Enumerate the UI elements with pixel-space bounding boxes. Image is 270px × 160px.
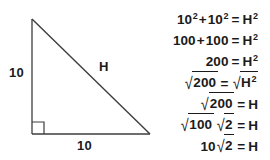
eq1-exp-b: 2 (223, 11, 228, 21)
eq6-lhs-sqrt-b: √2 (216, 114, 235, 136)
equation-line-4: √200=√H2 (150, 72, 258, 93)
equation-line-6: √100√2=H (150, 114, 258, 135)
eq4-equals: = (221, 73, 229, 94)
eq2-equals: = (232, 30, 240, 51)
eq2-rhs-exp: 2 (253, 32, 258, 42)
eq3-rhs-exp: 2 (253, 53, 258, 63)
eq4-rhs-radicand: H2 (240, 71, 258, 93)
triangle-svg (0, 0, 160, 160)
label-leg-horizontal: 10 (77, 138, 92, 153)
equation-line-3: 200=H2 (150, 51, 258, 72)
eq1-equals: = (232, 9, 240, 30)
right-triangle-figure: 10 10 H (0, 0, 160, 160)
eq4-rhs-radicand-base: H (241, 75, 251, 90)
eq7-equals: = (237, 136, 245, 157)
label-leg-vertical: 10 (9, 65, 24, 80)
eq6-lhs-sqrt-a: √100 (180, 114, 214, 136)
pythagorean-theorem-worksheet: 10 10 H 102+102=H2 100+100=H2 200=H2 √20… (0, 0, 270, 160)
eq6-rhs-base: H (248, 115, 258, 136)
label-hypotenuse: H (99, 59, 109, 74)
eq1-rhs-base: H (243, 9, 253, 30)
eq7-rhs-base: H (248, 136, 258, 157)
eq5-rhs-base: H (248, 94, 258, 115)
eq3-base-a: 200 (206, 51, 229, 72)
eq6-lhs-radicand-b: 2 (224, 113, 234, 135)
eq4-rhs-radicand-exp: 2 (251, 74, 256, 84)
eq2-base-b: 100 (206, 30, 229, 51)
eq5-lhs-sqrt: √200 (200, 93, 234, 115)
eq4-lhs-radicand: 200 (192, 71, 217, 93)
eq6-equals: = (237, 115, 245, 136)
eq1-operator: + (199, 9, 207, 30)
eq2-base-a: 100 (173, 30, 196, 51)
eq7-coefficient: 10 (200, 136, 215, 157)
equation-line-5: √200=H (150, 93, 258, 114)
eq5-equals: = (237, 94, 245, 115)
eq5-lhs-radicand: 200 (209, 92, 234, 114)
eq1-exp-a: 2 (193, 11, 198, 21)
eq6-lhs-radicand-a: 100 (188, 113, 213, 135)
eq2-rhs-base: H (243, 30, 253, 51)
equation-line-2: 100+100=H2 (150, 30, 258, 51)
eq4-lhs-sqrt: √200 (184, 72, 218, 94)
equation-line-7: 10√2=H (150, 135, 258, 156)
eq3-rhs-base: H (243, 51, 253, 72)
eq7-lhs-radicand: 2 (224, 134, 234, 156)
equation-derivation-list: 102+102=H2 100+100=H2 200=H2 √200=√H2 √2… (150, 9, 258, 156)
triangle-hypotenuse (32, 19, 150, 134)
eq3-equals: = (232, 51, 240, 72)
eq4-rhs-sqrt: √H2 (232, 72, 258, 94)
eq2-operator: + (197, 30, 205, 51)
eq1-base-a: 10 (177, 9, 192, 30)
eq1-rhs-exp: 2 (253, 11, 258, 21)
right-angle-marker-icon (32, 122, 44, 134)
equation-line-1: 102+102=H2 (150, 9, 258, 30)
eq7-lhs-sqrt: √2 (216, 135, 235, 157)
eq1-base-b: 10 (208, 9, 223, 30)
